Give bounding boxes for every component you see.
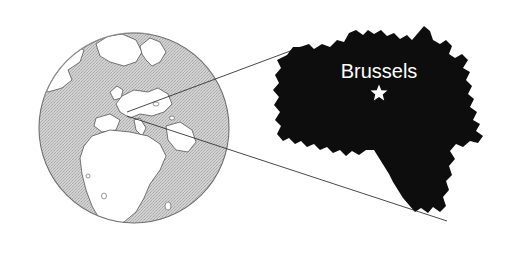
landmass-island-e (86, 174, 90, 178)
landmass-island-c (102, 193, 107, 199)
landmass-island-d (165, 202, 171, 210)
capital-city-label: Brussels (341, 60, 418, 82)
landmass-island-b (170, 116, 175, 120)
locator-map-svg: Brussels (0, 0, 523, 256)
landmass-island-a (153, 102, 159, 106)
figure-root: Brussels (0, 0, 523, 256)
